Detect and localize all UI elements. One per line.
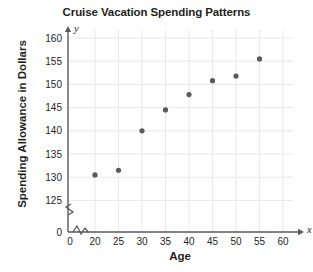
origin-label-x: 0 [67,236,73,247]
y-tick-label: 150 [45,79,62,90]
x-tick-label: 45 [207,236,219,247]
data-points [92,56,262,177]
y-axis-break-symbol [66,204,73,215]
axis-symbols: yx [73,23,312,235]
data-point [163,107,168,112]
y-tick-label: 160 [45,33,62,44]
data-point [116,168,121,173]
data-point [210,78,215,83]
origin-label-y: 0 [56,227,62,238]
y-tick-label: 145 [45,102,62,113]
x-axis-arrow [298,229,304,235]
x-tick-label: 40 [183,236,195,247]
y-tick-label: 130 [45,172,62,183]
data-point [186,92,191,97]
x-tick-label: 20 [89,236,101,247]
x-tick-label: 60 [277,236,289,247]
scatter-plot-figure: Cruise Vacation Spending Patterns Spendi… [0,0,313,272]
x-tick-label: 25 [113,236,125,247]
y-tick-label: 140 [45,125,62,136]
x-tick-label: 55 [254,236,266,247]
x-axis-symbol: x [306,224,312,235]
y-tick-label: 135 [45,149,62,160]
y-tick-label: 125 [45,195,62,206]
data-point [233,73,238,78]
plot-area: 0020253035404550556012513013514014515015… [0,0,313,272]
y-axis-symbol: y [73,23,79,34]
x-axis-break-symbol [73,226,88,234]
x-tick-label: 30 [136,236,148,247]
x-tick-label: 50 [230,236,242,247]
y-tick-label: 155 [45,56,62,67]
tick-labels: 0020253035404550556012513013514014515015… [45,33,289,248]
data-point [92,172,97,177]
data-point [257,56,262,61]
x-tick-label: 35 [160,236,172,247]
data-point [139,128,144,133]
y-axis-arrow [65,26,71,32]
